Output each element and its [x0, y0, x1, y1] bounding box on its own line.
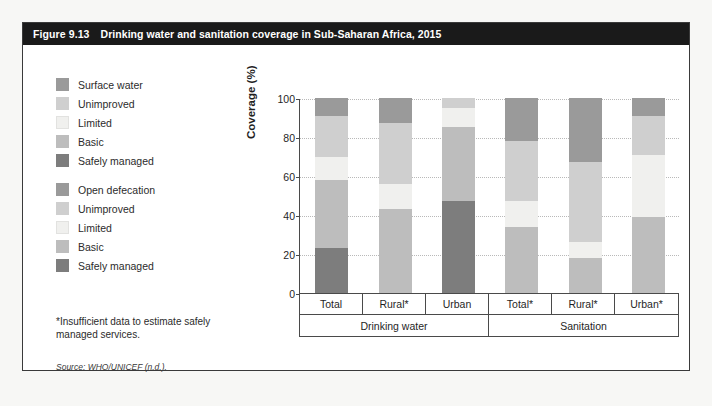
figure-title-bar: Figure 9.13 Drinking water and sanitatio… — [23, 23, 689, 45]
stacked-bar — [569, 98, 602, 293]
chart-plot-area: Coverage (%) 020406080100 TotalRural*Urb… — [251, 53, 681, 353]
legend-item-label: Safely managed — [78, 155, 154, 167]
y-tick-label: 60 — [283, 171, 295, 183]
legend-item: Basic — [56, 132, 154, 151]
figure-footnote: *Insufficient data to estimate safely ma… — [56, 315, 246, 341]
bar-segment — [505, 227, 538, 293]
legend-item-label: Basic — [78, 136, 104, 148]
y-tick-mark — [296, 99, 300, 100]
bar-segment — [315, 248, 348, 293]
bar-segment — [442, 127, 475, 201]
bar-segment — [632, 98, 665, 116]
legend-item-label: Limited — [78, 222, 112, 234]
bar-segment — [505, 98, 538, 141]
x-axis-category-cell: Total — [300, 294, 363, 314]
bar-segment — [315, 116, 348, 157]
bar-segment — [442, 201, 475, 293]
legend-swatch-safely-managed — [56, 154, 69, 167]
y-tick-label: 0 — [289, 288, 295, 300]
bar-segment — [442, 108, 475, 128]
x-axis-category-cell: Rural* — [552, 294, 615, 314]
legend-swatch-unimproved — [56, 97, 69, 110]
bar-segment — [379, 184, 412, 209]
bar-segment — [379, 98, 412, 123]
bar-segment — [442, 98, 475, 108]
bar-segment — [569, 242, 602, 258]
legend-sanitation: Open defecationUnimprovedLimitedBasicSaf… — [56, 180, 155, 275]
bar-segment — [569, 162, 602, 242]
legend-item-label: Limited — [78, 117, 112, 129]
y-axis-label: Coverage (%) — [245, 66, 257, 140]
figure-container: Figure 9.13 Drinking water and sanitatio… — [22, 22, 690, 371]
legend-item: Safely managed — [56, 151, 154, 170]
y-gridline — [300, 99, 679, 100]
page-background: Figure 9.13 Drinking water and sanitatio… — [0, 0, 712, 406]
bar-segment — [379, 123, 412, 183]
legend-item-label: Surface water — [78, 79, 143, 91]
figure-title: Drinking water and sanitation coverage i… — [101, 28, 442, 40]
legend-swatch-unimproved — [56, 202, 69, 215]
legend-swatch-limited — [56, 221, 69, 234]
x-axis-category-row: TotalRural*UrbanTotal*Rural*Urban* — [300, 294, 678, 314]
legend-item: Basic — [56, 237, 155, 256]
legend-swatch-safely-managed — [56, 259, 69, 272]
legend-item-label: Safely managed — [78, 260, 154, 272]
bar-segment — [315, 157, 348, 180]
legend-swatch-surface-water — [56, 78, 69, 91]
legend-swatch-open-defecation — [56, 183, 69, 196]
legend-item-label: Open defecation — [78, 184, 155, 196]
stacked-bar — [632, 98, 665, 293]
bar-segment — [505, 201, 538, 226]
legend-item-label: Unimproved — [78, 203, 135, 215]
figure-number: Figure 9.13 — [33, 28, 90, 40]
bar-segment — [569, 258, 602, 293]
bar-segment — [569, 98, 602, 162]
bar-segment — [315, 98, 348, 116]
legend-item: Surface water — [56, 75, 154, 94]
legend-swatch-basic — [56, 240, 69, 253]
y-tick-mark — [296, 216, 300, 217]
y-tick-label: 100 — [277, 93, 295, 105]
legend-item: Safely managed — [56, 256, 155, 275]
y-gridline — [300, 138, 679, 139]
legend-item: Unimproved — [56, 199, 155, 218]
x-axis-group-cell: Sanitation — [489, 315, 678, 336]
y-tick-label: 20 — [283, 249, 295, 261]
x-axis-category-cell: Urban* — [615, 294, 678, 314]
stacked-bar — [315, 98, 348, 293]
x-axis-group-row: Drinking waterSanitation — [300, 314, 678, 336]
x-axis-category-cell: Rural* — [363, 294, 426, 314]
y-tick-mark — [296, 177, 300, 178]
legend-swatch-limited — [56, 116, 69, 129]
legend-item: Unimproved — [56, 94, 154, 113]
legend-item-label: Unimproved — [78, 98, 135, 110]
bar-segment — [315, 180, 348, 248]
bar-segment — [632, 116, 665, 155]
x-axis-group-cell: Drinking water — [300, 315, 489, 336]
bar-segment — [379, 209, 412, 293]
stacked-bar — [442, 98, 475, 293]
legend-drinking-water: Surface waterUnimprovedLimitedBasicSafel… — [56, 75, 154, 170]
stacked-bar — [379, 98, 412, 293]
legend-item-label: Basic — [78, 241, 104, 253]
y-gridline — [300, 216, 679, 217]
bar-segment — [632, 217, 665, 293]
y-tick-mark — [296, 138, 300, 139]
legend-item: Open defecation — [56, 180, 155, 199]
legend-swatch-basic — [56, 135, 69, 148]
legend-item: Limited — [56, 113, 154, 132]
y-gridline — [300, 255, 679, 256]
bar-segment — [632, 155, 665, 217]
x-axis-category-cell: Urban — [426, 294, 489, 314]
y-tick-label: 80 — [283, 132, 295, 144]
y-gridline — [300, 177, 679, 178]
chart-axes: 020406080100 — [299, 99, 679, 294]
bar-segment — [505, 141, 538, 201]
y-tick-label: 40 — [283, 210, 295, 222]
y-tick-mark — [296, 255, 300, 256]
stacked-bar — [505, 98, 538, 293]
figure-source: Source: WHO/UNICEF (n.d.). — [56, 362, 167, 372]
x-axis-category-cell: Total* — [489, 294, 552, 314]
x-axis-category-table: TotalRural*UrbanTotal*Rural*Urban* Drink… — [299, 294, 679, 337]
legend-item: Limited — [56, 218, 155, 237]
